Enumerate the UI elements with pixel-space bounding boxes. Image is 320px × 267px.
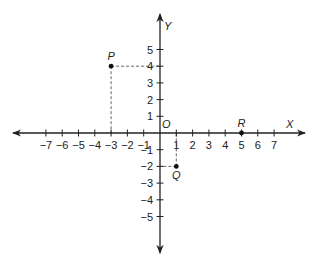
x-axis-label: X [285,118,294,130]
x-tick-label: 3 [206,139,212,151]
x-tick-label: −6 [56,139,69,151]
x-tick-label: −7 [40,139,53,151]
x-tick-label: 5 [238,139,244,151]
point-label-p: P [107,50,115,62]
x-tick-label: −2 [121,139,134,151]
y-tick-label: 3 [147,77,153,89]
x-tick-label: 4 [222,139,228,151]
y-tick-label: −5 [140,211,153,223]
x-tick-label: −4 [89,139,102,151]
point-r [239,131,244,136]
y-tick-label: −4 [140,194,153,206]
y-tick-label: −3 [140,177,153,189]
y-tick-label: 2 [147,94,153,106]
point-label-q: Q [172,169,181,181]
y-tick-label: 5 [147,44,153,56]
x-tick-label: 1 [173,139,179,151]
coordinate-plane: X Y O −7−6−5−4−3−2−11234567−5−4−3−2−1123… [0,0,320,267]
x-tick-label: −3 [105,139,118,151]
x-tick-label: 7 [271,139,277,151]
point-label-r: R [238,117,246,129]
y-tick-label: 1 [147,110,153,122]
y-tick-label: −1 [140,144,153,156]
point-p [109,64,114,69]
origin-label: O [162,118,171,130]
point-q [174,164,179,169]
y-tick-label: −2 [140,160,153,172]
x-tick-label: −5 [72,139,85,151]
y-tick-label: 4 [147,60,153,72]
x-tick-label: 2 [190,139,196,151]
plotted-points: PQR [107,50,245,181]
x-tick-label: 6 [255,139,261,151]
y-axis-label: Y [164,20,172,32]
